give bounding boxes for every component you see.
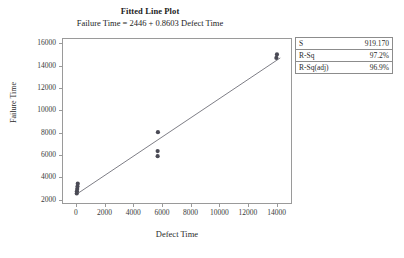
y-tick-label: 10000	[20, 106, 56, 114]
x-tick-mark	[105, 204, 106, 207]
y-tick-label: 2000	[20, 196, 56, 204]
fitted-line-plot-figure: Fitted Line Plot Failure Time = 2446 + 0…	[0, 0, 404, 258]
statistics-key: R-Sq(adj)	[299, 62, 329, 73]
statistics-value: 96.9%	[370, 62, 389, 73]
y-tick-label: 8000	[20, 129, 56, 137]
chart-title: Fitted Line Plot	[0, 6, 300, 16]
data-point	[156, 149, 160, 153]
statistics-value: 97.2%	[370, 50, 389, 61]
x-tick-mark	[162, 204, 163, 207]
x-tick-mark	[76, 204, 77, 207]
regression-line-segment	[76, 58, 280, 195]
x-tick-mark	[277, 204, 278, 207]
data-point	[156, 154, 160, 158]
x-tick-mark	[191, 204, 192, 207]
statistics-value: 919.170	[365, 38, 389, 49]
plot-area	[62, 38, 292, 204]
statistics-key: R-Sq	[299, 50, 314, 61]
y-tick-label: 12000	[20, 84, 56, 92]
y-tick-label: 6000	[20, 151, 56, 159]
x-tick-label: 14000	[255, 209, 299, 217]
plot-canvas	[63, 39, 291, 203]
data-point	[274, 56, 278, 60]
x-tick-mark	[133, 204, 134, 207]
statistics-row: R-Sq97.2%	[296, 50, 392, 62]
y-tick-label: 14000	[20, 62, 56, 70]
data-point	[76, 182, 80, 186]
statistics-key: S	[299, 38, 303, 49]
x-tick-mark	[248, 204, 249, 207]
x-axis-label: Defect Time	[62, 229, 292, 239]
chart-subtitle: Failure Time = 2446 + 0.8603 Defect Time	[0, 18, 300, 28]
regression-line	[76, 58, 280, 195]
statistics-row: R-Sq(adj)96.9%	[296, 62, 392, 73]
y-tick-label: 16000	[20, 39, 56, 47]
y-axis-label: Failure Time	[9, 48, 18, 158]
data-point	[275, 52, 279, 56]
x-tick-mark	[219, 204, 220, 207]
data-points	[75, 52, 279, 195]
y-tick-label: 4000	[20, 173, 56, 181]
statistics-row: S919.170	[296, 38, 392, 50]
data-point	[156, 130, 160, 134]
statistics-box: S919.170R-Sq97.2%R-Sq(adj)96.9%	[295, 37, 393, 74]
